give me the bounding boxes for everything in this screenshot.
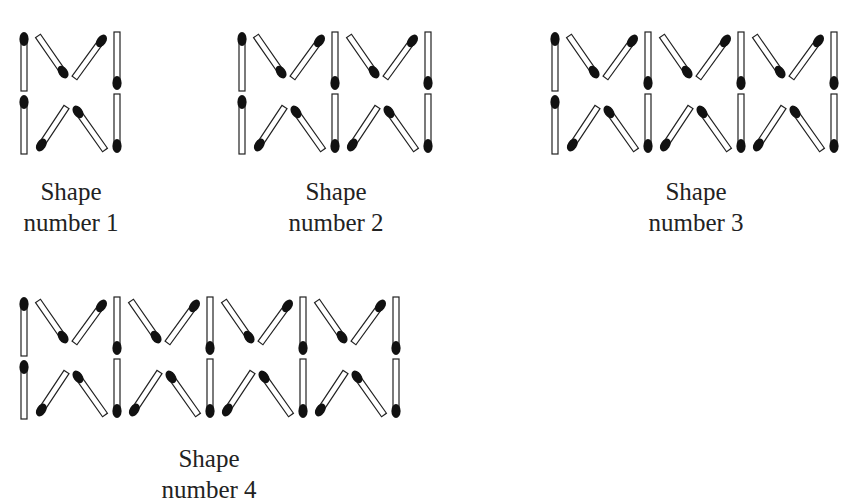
matchstick — [19, 297, 28, 356]
matchstick — [382, 32, 421, 80]
match-head — [298, 404, 307, 418]
shape-label-title: Shape — [0, 176, 151, 207]
match-head — [205, 404, 214, 418]
matchstick — [252, 33, 289, 80]
matchstick — [252, 104, 289, 153]
matchstick — [256, 369, 295, 418]
shape-4-drawing — [20, 295, 400, 420]
matchstick — [112, 94, 121, 153]
matchstick — [288, 104, 327, 153]
matchstick — [643, 94, 652, 153]
matchstick — [71, 297, 110, 345]
match-head — [205, 341, 214, 355]
match-head — [19, 95, 28, 109]
shape-label-number: number 2 — [256, 207, 416, 238]
matchstick — [19, 32, 28, 91]
shape-label-title: Shape — [256, 176, 416, 207]
shape-2-drawing — [238, 30, 432, 155]
matchstick — [643, 32, 652, 90]
matchstick — [164, 297, 203, 345]
matchstick — [34, 104, 71, 153]
matchstick — [658, 104, 695, 153]
shape-2-label: Shapenumber 2 — [256, 176, 416, 238]
match-head — [330, 139, 339, 153]
match-head — [550, 32, 559, 46]
shape-3-drawing — [551, 30, 838, 155]
match-head — [391, 341, 400, 355]
match-head — [237, 32, 246, 46]
match-head — [423, 139, 432, 153]
matchstick — [423, 94, 432, 153]
matchstick — [112, 32, 121, 90]
match-head — [423, 76, 432, 90]
matchstick — [330, 32, 339, 90]
shape-3-label: Shapenumber 3 — [616, 176, 776, 238]
matchstick — [565, 33, 602, 80]
match-head — [112, 341, 121, 355]
matchstick — [298, 359, 307, 418]
matchstick — [34, 369, 71, 418]
matchstick — [237, 32, 246, 91]
match-head — [643, 139, 652, 153]
shape-label-number: number 1 — [0, 207, 151, 238]
matchstick — [19, 95, 28, 154]
matchstick — [601, 104, 640, 153]
shape-label-title: Shape — [129, 443, 289, 474]
matchstick — [19, 360, 28, 419]
matchstick — [34, 33, 71, 80]
shape-label-number: number 4 — [129, 474, 289, 500]
matchstick — [751, 33, 788, 80]
matchstick — [349, 369, 388, 418]
matchstick — [829, 94, 838, 153]
matchstick — [330, 94, 339, 153]
matchstick — [550, 95, 559, 154]
matchstick — [220, 298, 257, 345]
matchstick — [751, 104, 788, 153]
match-head — [19, 297, 28, 311]
shape-label-title: Shape — [616, 176, 776, 207]
match-head — [736, 76, 745, 90]
matchstick — [112, 359, 121, 418]
matchstick — [313, 369, 350, 418]
matchstick — [787, 104, 826, 153]
matchstick — [70, 369, 109, 418]
matchstick — [695, 32, 734, 80]
match-head — [298, 341, 307, 355]
matchstick — [736, 94, 745, 153]
matchstick — [391, 297, 400, 355]
matchstick — [127, 369, 164, 418]
matchstick — [205, 297, 214, 355]
matchstick — [694, 104, 733, 153]
match-head — [112, 139, 121, 153]
matchstick — [345, 33, 382, 80]
matchstick — [788, 32, 827, 80]
shape-label-number: number 3 — [616, 207, 776, 238]
matchstick — [220, 369, 257, 418]
matchstick — [112, 297, 121, 355]
match-head — [330, 76, 339, 90]
matchstick — [71, 32, 110, 80]
matchstick — [381, 104, 420, 153]
matchstick — [350, 297, 389, 345]
matchstick — [205, 359, 214, 418]
match-head — [19, 360, 28, 374]
shape-1-drawing — [20, 30, 121, 155]
match-head — [829, 76, 838, 90]
shape-1-label: Shapenumber 1 — [0, 176, 151, 238]
matchstick — [391, 359, 400, 418]
matchstick — [423, 32, 432, 90]
matchstick — [257, 297, 296, 345]
matchstick — [602, 32, 641, 80]
matchstick — [658, 33, 695, 80]
match-head — [829, 139, 838, 153]
matchstick — [313, 298, 350, 345]
match-head — [736, 139, 745, 153]
matchstick — [298, 297, 307, 355]
match-head — [19, 32, 28, 46]
match-head — [391, 404, 400, 418]
match-head — [237, 95, 246, 109]
matchstick — [829, 32, 838, 90]
matchstick — [565, 104, 602, 153]
matchstick — [163, 369, 202, 418]
match-head — [112, 404, 121, 418]
